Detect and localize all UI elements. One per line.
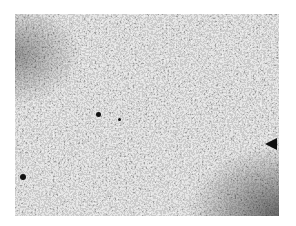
inclusion-spot [96, 112, 101, 117]
inclusion-spot [20, 174, 26, 180]
grain-texture [15, 14, 279, 216]
dark-wedge-feature [265, 138, 277, 150]
micrograph-image [15, 14, 279, 216]
inclusion-spot [118, 118, 121, 121]
